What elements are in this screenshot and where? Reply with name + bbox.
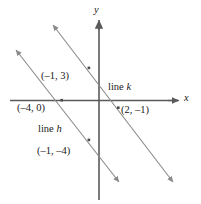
x-axis-label: x <box>184 93 189 104</box>
point-label-neg4-0: (–4, 0) <box>17 103 45 114</box>
point-marker-2-neg1 <box>117 106 120 109</box>
coordinate-plane-figure: y x (–1, 3) (–4, 0) (2, –1) (–1, –4) lin… <box>0 0 201 204</box>
y-axis-label: y <box>94 5 99 16</box>
point-marker-neg4-0 <box>60 99 63 102</box>
line-k-label-name: k <box>126 81 131 92</box>
line-k-label: line k <box>108 82 131 93</box>
point-marker-neg1-neg4 <box>88 139 91 142</box>
point-label-2-neg1: (2, –1) <box>121 105 149 116</box>
line-h-label-prefix: line <box>38 123 56 134</box>
point-marker-neg1-3 <box>88 67 91 70</box>
point-label-neg1-3: (–1, 3) <box>41 71 69 82</box>
point-label-neg1-neg4: (–1, –4) <box>37 146 70 157</box>
line-k <box>53 25 173 182</box>
line-h-label-name: h <box>56 123 61 134</box>
line-h-label: line h <box>38 124 62 135</box>
line-k-label-prefix: line <box>108 81 126 92</box>
